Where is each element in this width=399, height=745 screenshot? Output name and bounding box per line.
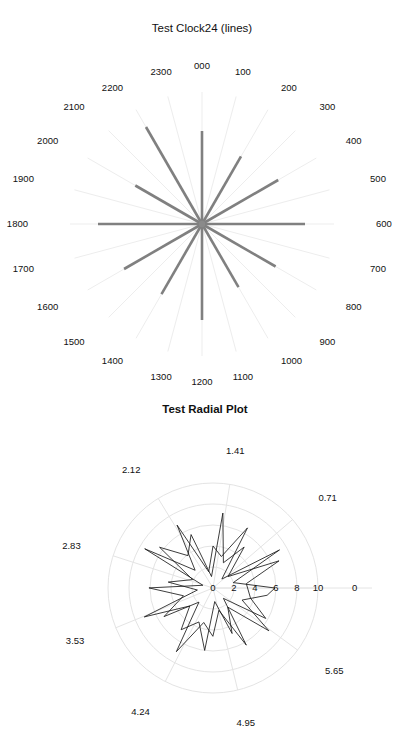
clock24-gridline — [202, 224, 295, 317]
radial-angular-label: 5.65 — [325, 665, 344, 676]
clock24-hour-label: 500 — [370, 173, 386, 184]
clock24-gridline — [202, 190, 330, 224]
clock24-hour-label: 600 — [376, 218, 392, 229]
clock24-hour-label: 200 — [281, 82, 297, 93]
clock24-hour-label: 300 — [319, 101, 335, 112]
radial-tick-label: 0 — [210, 582, 215, 593]
clock24-hour-label: 100 — [235, 66, 251, 77]
clock24-gridline — [168, 224, 202, 352]
radial-plot-gridlines — [108, 483, 372, 693]
clock24-svg: Test Clock24 (lines) 0001002003004005006… — [0, 0, 399, 400]
radial-plot-title: Test Radial Plot — [162, 403, 248, 415]
clock24-hour-label: 2000 — [37, 135, 58, 146]
radial-angular-label: 0 — [352, 582, 357, 593]
clock24-gridline — [109, 224, 202, 317]
clock24-hour-label: 1900 — [13, 173, 34, 184]
clock24-hour-label: 000 — [194, 60, 210, 71]
clock24-gridline — [74, 190, 202, 224]
radial-angular-label: 3.53 — [66, 635, 85, 646]
radial-angular-label: 1.41 — [226, 445, 245, 456]
radial-tick-label: 4 — [252, 582, 257, 593]
clock24-hour-label: 1300 — [151, 371, 172, 382]
clock24-gridline — [202, 224, 330, 258]
clock24-title: Test Clock24 (lines) — [152, 22, 253, 34]
clock24-gridline — [202, 131, 295, 224]
clock24-hour-label: 1100 — [233, 371, 253, 382]
radial-tick-label: 8 — [294, 582, 299, 593]
clock24-gridline — [202, 96, 236, 224]
clock24-chart-panel: Test Clock24 (lines) 0001002003004005006… — [0, 0, 399, 400]
clock24-center-hub — [199, 221, 205, 227]
radial-plot-panel: Test Radial Plot 00.711.412.122.833.534.… — [0, 400, 399, 745]
clock24-gridline — [202, 224, 236, 352]
radial-grid-spoke — [165, 588, 213, 682]
clock24-hour-label: 1000 — [281, 355, 302, 366]
radial-tick-label: 10 — [313, 582, 324, 593]
radial-tick-label: 2 — [231, 582, 236, 593]
clock24-hour-label: 1400 — [102, 355, 123, 366]
radial-angular-label: 4.24 — [131, 706, 150, 717]
clock24-hour-label: 700 — [370, 263, 386, 274]
clock24-hour-label: 1800 — [7, 218, 28, 229]
radial-tick-label: 6 — [273, 582, 278, 593]
clock24-hour-label: 1500 — [63, 336, 84, 347]
clock24-hour-label: 1700 — [13, 263, 34, 274]
clock24-hour-label: 800 — [346, 301, 362, 312]
clock24-hour-label: 2100 — [63, 101, 84, 112]
clock24-ray — [146, 127, 202, 224]
radial-plot-svg: Test Radial Plot 00.711.412.122.833.534.… — [0, 400, 399, 745]
clock24-hour-label: 400 — [346, 135, 362, 146]
radial-angular-label: 4.95 — [236, 717, 255, 728]
clock24-hour-label: 900 — [319, 336, 335, 347]
radial-angular-label: 0.71 — [318, 492, 337, 503]
clock24-hour-label: 1200 — [191, 376, 212, 387]
clock24-hour-label: 2300 — [151, 66, 172, 77]
radial-angular-label: 2.12 — [122, 464, 141, 475]
clock24-hour-label: 2200 — [102, 82, 123, 93]
clock24-gridline — [168, 96, 202, 224]
clock24-hour-label: 1600 — [37, 301, 58, 312]
clock24-gridline — [74, 224, 202, 258]
radial-angular-label: 2.83 — [62, 540, 81, 551]
